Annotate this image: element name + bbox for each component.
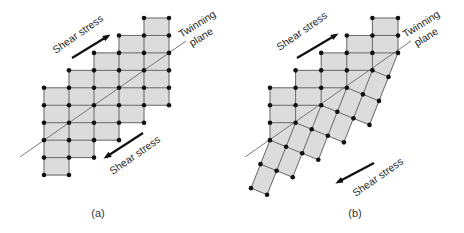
atom-dot	[345, 68, 350, 73]
atom-dot	[345, 51, 350, 56]
lattice-cell	[69, 123, 94, 140]
lattice-cell	[44, 88, 69, 106]
atom-dot	[316, 158, 321, 163]
lattice-cell	[119, 105, 144, 122]
lattice-cell	[321, 70, 347, 88]
atom-dot	[300, 151, 305, 156]
lattice-cell	[119, 53, 144, 70]
atom-dot	[342, 140, 347, 145]
lattice-cell	[144, 70, 169, 88]
atom-dot	[167, 33, 172, 38]
atom-dot	[142, 120, 147, 125]
atom-dot	[117, 51, 122, 56]
atom-dot	[249, 186, 254, 191]
atom-dot	[345, 86, 350, 91]
atom-dot	[396, 33, 401, 38]
atom-dot	[167, 16, 172, 21]
atom-dot	[92, 155, 97, 160]
atom-dot	[67, 68, 72, 73]
atom-dot	[284, 144, 289, 149]
panel-a-original-lattice: Shear stress Shear stress Twinning plane	[20, 7, 218, 177]
atom-dot	[268, 86, 273, 91]
atom-dot	[367, 123, 372, 128]
atom-dot	[142, 103, 147, 108]
atom-dot	[293, 86, 298, 91]
atom-dot	[42, 86, 47, 91]
atom-dot	[42, 155, 47, 160]
diagram-canvas: Shear stress Shear stress Twinning plane…	[0, 0, 464, 233]
lattice-cell	[119, 88, 144, 106]
atom-dot	[142, 16, 147, 21]
atom-dot	[293, 103, 298, 108]
lattice-cell	[144, 36, 169, 53]
atom-dot	[268, 138, 273, 143]
atom-dot	[117, 86, 122, 91]
twinning-diagram: Shear stress Shear stress Twinning plane…	[0, 0, 464, 233]
atom-dot	[268, 103, 273, 108]
atom-dot	[167, 51, 172, 56]
atom-dot	[42, 103, 47, 108]
lattice-cell	[94, 70, 119, 88]
atom-dot	[309, 127, 314, 132]
atom-dot	[92, 120, 97, 125]
atom-dot	[117, 138, 122, 143]
panel-a-caption: (a)	[91, 207, 104, 219]
lattice-cell	[94, 53, 119, 70]
lattice-cell	[94, 123, 119, 140]
lattice-cell	[119, 36, 144, 53]
atom-dot	[361, 92, 366, 97]
atom-dot	[335, 110, 340, 115]
atom-dot	[319, 68, 324, 73]
lattice-cell	[44, 140, 69, 158]
lattice-cell	[372, 36, 398, 53]
atom-dot	[67, 155, 72, 160]
atom-dot	[67, 173, 72, 178]
atom-dot	[67, 120, 72, 125]
atom-dot	[142, 68, 147, 73]
atom-dot	[319, 103, 324, 108]
atom-dot	[92, 51, 97, 56]
atom-dot	[370, 51, 375, 56]
atom-dot	[117, 120, 122, 125]
atom-dot	[386, 75, 391, 80]
atom-dot	[92, 86, 97, 91]
lattice-cell	[321, 53, 347, 70]
atom-dot	[42, 138, 47, 143]
lattice-cell	[270, 105, 296, 122]
atom-dot	[142, 86, 147, 91]
atom-dot	[396, 51, 401, 56]
lattice-cell	[296, 88, 322, 106]
atom-dot	[67, 138, 72, 143]
lattice-cell	[144, 88, 169, 106]
atom-dot	[117, 103, 122, 108]
atom-dot	[117, 68, 122, 73]
atom-dot	[92, 138, 97, 143]
shear-stress-bottom-label: Shear stress	[350, 155, 405, 199]
atom-dot	[377, 99, 382, 104]
atom-dot	[92, 103, 97, 108]
lattice-cell	[296, 70, 322, 88]
atom-dot	[67, 103, 72, 108]
atom-dot	[42, 173, 47, 178]
atom-dot	[351, 116, 356, 121]
atom-dot	[370, 16, 375, 21]
atom-dot	[326, 134, 331, 139]
atom-dot	[274, 168, 279, 173]
atom-dot	[345, 33, 350, 38]
atom-dot	[142, 33, 147, 38]
atom-dot	[167, 68, 172, 73]
lattice-cell	[69, 70, 94, 88]
lattice-cell	[44, 158, 69, 175]
lattice-cell	[347, 53, 373, 70]
atom-dot	[268, 120, 273, 125]
atom-dot	[319, 86, 324, 91]
atom-dot	[290, 175, 295, 180]
shear-stress-top-label: Shear stress	[50, 12, 105, 56]
atom-dot	[265, 192, 270, 197]
shear-stress-top-label: Shear stress	[274, 9, 329, 53]
atom-dot	[142, 51, 147, 56]
atom-dot	[258, 162, 263, 167]
atom-dot	[370, 33, 375, 38]
atom-dot	[117, 33, 122, 38]
lattice-cell	[270, 88, 296, 106]
